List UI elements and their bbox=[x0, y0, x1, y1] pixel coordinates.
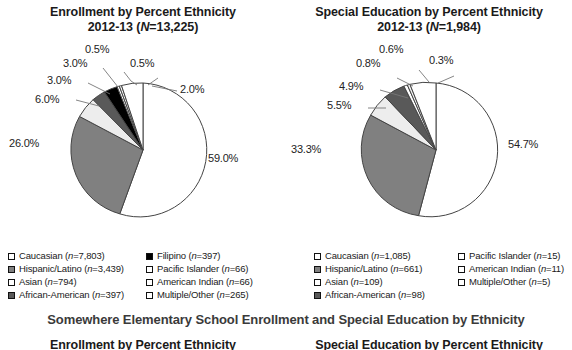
legend-column-1: Caucasian (n=7,803) Hispanic/Latino (n=3… bbox=[8, 250, 124, 302]
legend-item: Multiple/Other (n=5) bbox=[458, 276, 564, 289]
legend-label-hispanic: Hispanic/Latino (n=661) bbox=[325, 263, 422, 276]
legend-item: Filipino (n=397) bbox=[146, 250, 253, 263]
pie-label-0: 0.6% bbox=[379, 43, 403, 55]
legend-swatch-asian bbox=[8, 279, 15, 286]
pie-label-6: 54.7% bbox=[508, 138, 538, 150]
legend-label-caucasian: Caucasian (n=7,803) bbox=[19, 250, 105, 263]
leader-line-2 bbox=[438, 76, 454, 83]
legend-label-suffix: =5) bbox=[537, 276, 551, 287]
legend-label-prefix: American Indian ( bbox=[469, 263, 541, 274]
legend-column-1: Caucasian (n=1,085) Hispanic/Latino (n=6… bbox=[314, 250, 425, 302]
subtitle-prefix: 2012-13 ( bbox=[88, 20, 141, 34]
legend-item: African-American (n=397) bbox=[8, 289, 124, 302]
legend-column-2: Filipino (n=397) Pacific Islander (n=66)… bbox=[146, 250, 253, 302]
legend-special-education: Caucasian (n=1,085) Hispanic/Latino (n=6… bbox=[286, 250, 572, 305]
legend-label-prefix: Asian ( bbox=[19, 276, 48, 287]
legend-label-prefix: Hispanic/Latino ( bbox=[325, 263, 393, 274]
legend-item: American Indian (n=66) bbox=[146, 276, 253, 289]
legend-label-prefix: Pacific Islander ( bbox=[157, 263, 225, 274]
legend-label-suffix: =794) bbox=[53, 276, 77, 287]
leader-line-3 bbox=[397, 78, 413, 86]
legend-label-prefix: Caucasian ( bbox=[19, 250, 68, 261]
pie-label-4: 6.0% bbox=[35, 93, 59, 105]
legend-label-prefix: African-American ( bbox=[19, 289, 95, 300]
legend-label-suffix: =109) bbox=[359, 276, 383, 287]
legend-swatch-multiple-other bbox=[458, 279, 465, 286]
legend-label-prefix: Multiple/Other ( bbox=[157, 289, 220, 300]
pie-label-5: 2.0% bbox=[180, 83, 204, 95]
legend-swatch-filipino bbox=[146, 253, 153, 260]
chart-title: Enrollment by Percent Ethnicity bbox=[0, 5, 286, 20]
legend-label-pacific-islander: Pacific Islander (n=15) bbox=[469, 250, 560, 263]
legend-item: Hispanic/Latino (n=3,439) bbox=[8, 263, 124, 276]
pie-label-1: 0.3% bbox=[429, 54, 453, 66]
legend-label-american-indian: American Indian (n=11) bbox=[469, 263, 564, 276]
legend-label-multiple-other: Multiple/Other (n=5) bbox=[469, 276, 550, 289]
legend-item: Pacific Islander (n=66) bbox=[146, 263, 253, 276]
pie-label-3: 4.9% bbox=[339, 80, 363, 92]
legend-label-prefix: Multiple/Other ( bbox=[469, 276, 532, 287]
legend-label-suffix: =11) bbox=[546, 263, 564, 274]
legend-item: Multiple/Other (n=265) bbox=[146, 289, 253, 302]
legend-label-multiple-other: Multiple/Other (n=265) bbox=[157, 289, 249, 302]
legend-label-prefix: Pacific Islander ( bbox=[469, 250, 537, 261]
legend-swatch-african-american bbox=[314, 292, 321, 299]
chart-subtitle: 2012-13 (N=1,984) bbox=[286, 20, 572, 35]
next-chart-title-right: Special Education by Percent Ethnicity bbox=[286, 338, 572, 350]
pie-label-5: 33.3% bbox=[291, 143, 321, 155]
pie-svg bbox=[0, 38, 286, 248]
legend-label-suffix: =98) bbox=[406, 289, 425, 300]
pie-chart-special-education: 0.6% 0.3% 0.8% 4.9% 5.5% 33.3% 54.7% bbox=[286, 38, 572, 248]
legend-label-suffix: =66) bbox=[234, 276, 253, 287]
legend-label-suffix: =397) bbox=[100, 289, 124, 300]
legend-swatch-multiple-other bbox=[146, 292, 153, 299]
legend-label-prefix: African-American ( bbox=[325, 289, 401, 300]
legend-label-prefix: Asian ( bbox=[325, 276, 354, 287]
subtitle-n-symbol: N bbox=[140, 20, 149, 34]
legend-column-2: Pacific Islander (n=15) American Indian … bbox=[458, 250, 564, 289]
legend-label-asian: Asian (n=794) bbox=[19, 276, 76, 289]
figure-caption: Somewhere Elementary School Enrollment a… bbox=[0, 312, 572, 327]
legend-item: Asian (n=794) bbox=[8, 276, 124, 289]
legend-label-filipino: Filipino (n=397) bbox=[157, 250, 220, 263]
legend-label-prefix: Caucasian ( bbox=[325, 250, 374, 261]
subtitle-suffix: =1,984) bbox=[439, 20, 481, 34]
pie-label-0: 0.5% bbox=[85, 43, 109, 55]
legend-label-suffix: =66) bbox=[230, 263, 249, 274]
legend-swatch-caucasian bbox=[314, 253, 321, 260]
legend-label-suffix: =3,439) bbox=[92, 263, 123, 274]
legend-label-prefix: Hispanic/Latino ( bbox=[19, 263, 87, 274]
chart-subtitle: 2012-13 (N=13,225) bbox=[0, 20, 286, 35]
pie-label-7: 59.0% bbox=[208, 152, 238, 164]
legend-enrollment: Caucasian (n=7,803) Hispanic/Latino (n=3… bbox=[0, 250, 286, 305]
legend-label-suffix: =265) bbox=[225, 289, 249, 300]
legend-item: Caucasian (n=1,085) bbox=[314, 250, 425, 263]
subtitle-suffix: =13,225) bbox=[149, 20, 198, 34]
leader-line-3 bbox=[103, 68, 118, 87]
legend-label-african-american: African-American (n=98) bbox=[325, 289, 425, 302]
legend-swatch-pacific-islander bbox=[146, 266, 153, 273]
pie-label-4: 5.5% bbox=[327, 99, 351, 111]
legend-swatch-american-indian bbox=[458, 266, 465, 273]
legend-label-suffix: =7,803) bbox=[73, 250, 104, 261]
next-figure-partial-row: Enrollment by Percent Ethnicity Special … bbox=[0, 338, 572, 350]
legend-label-african-american: African-American (n=397) bbox=[19, 289, 124, 302]
pie-label-3: 3.0% bbox=[47, 74, 71, 86]
legend-label-hispanic: Hispanic/Latino (n=3,439) bbox=[19, 263, 124, 276]
pie-label-2: 3.0% bbox=[63, 57, 87, 69]
subtitle-n-symbol: N bbox=[430, 20, 439, 34]
pie-label-1: 0.5% bbox=[130, 57, 154, 69]
chart-panel-special-education: Special Education by Percent Ethnicity 2… bbox=[286, 0, 572, 305]
legend-item: African-American (n=98) bbox=[314, 289, 425, 302]
legend-swatch-hispanic bbox=[314, 266, 321, 273]
legend-swatch-african-american bbox=[8, 292, 15, 299]
legend-label-suffix: =1,085) bbox=[379, 250, 410, 261]
legend-swatch-hispanic bbox=[8, 266, 15, 273]
legend-label-asian: Asian (n=109) bbox=[325, 276, 382, 289]
pie-label-2: 0.8% bbox=[356, 57, 380, 69]
legend-item: Asian (n=109) bbox=[314, 276, 425, 289]
next-chart-title-left: Enrollment by Percent Ethnicity bbox=[0, 338, 286, 350]
legend-label-prefix: Filipino ( bbox=[157, 250, 191, 261]
chart-title: Special Education by Percent Ethnicity bbox=[286, 5, 572, 20]
legend-label-prefix: American Indian ( bbox=[157, 276, 229, 287]
